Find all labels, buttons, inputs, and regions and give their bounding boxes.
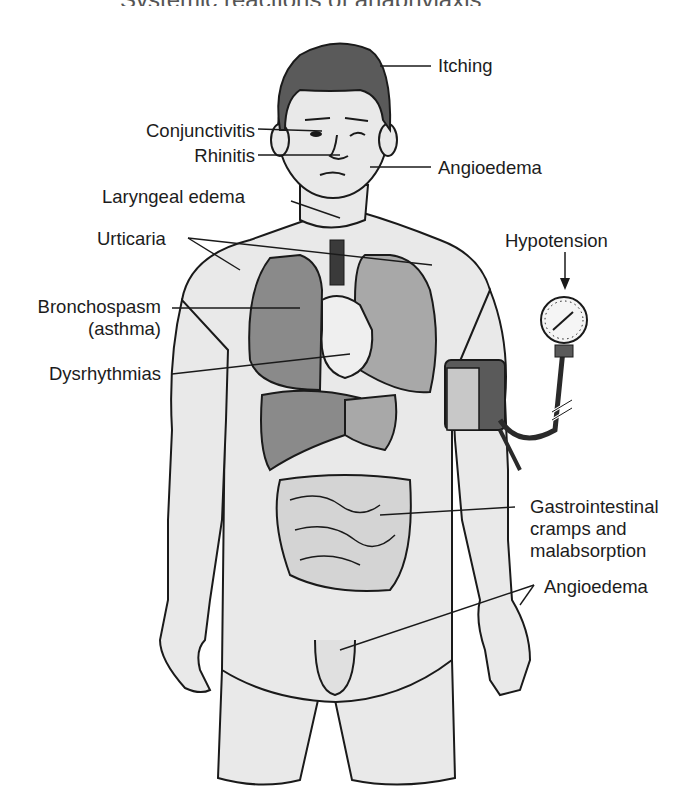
- trachea: [330, 240, 344, 285]
- label-urticaria: Urticaria: [97, 228, 166, 249]
- label-gastrointestinal: Gastrointestinal: [530, 496, 659, 517]
- label-malabsorption: malabsorption: [530, 540, 646, 561]
- label-rhinitis: Rhinitis: [194, 145, 255, 166]
- label-itching: Itching: [438, 55, 493, 76]
- left-arm: [160, 300, 228, 692]
- label-bronchospasm: Bronchospasm: [38, 296, 161, 317]
- bp-tube: [500, 350, 563, 438]
- label-asthma: (asthma): [88, 318, 161, 339]
- right-arm: [452, 290, 530, 695]
- figure-title-fragment: Systemic reactions of anaphylaxis: [120, 0, 580, 6]
- label-dysrhythmias: Dysrhythmias: [49, 363, 161, 384]
- label-angioedema-face: Angioedema: [438, 157, 542, 178]
- label-laryngeal-edema: Laryngeal edema: [102, 186, 245, 207]
- label-hypotension: Hypotension: [505, 230, 608, 251]
- body-illustration: [0, 0, 691, 800]
- arrow-down-icon: [560, 278, 570, 290]
- left-eye: [310, 131, 322, 137]
- label-angioedema-lower: Angioedema: [544, 576, 648, 597]
- label-conjunctivitis: Conjunctivitis: [146, 120, 255, 141]
- anaphylaxis-diagram: Systemic reactions of anaphylaxis Itchin…: [0, 0, 691, 800]
- left-lung: [249, 255, 322, 390]
- gauge-connector: [555, 345, 573, 357]
- label-cramps-and: cramps and: [530, 518, 627, 539]
